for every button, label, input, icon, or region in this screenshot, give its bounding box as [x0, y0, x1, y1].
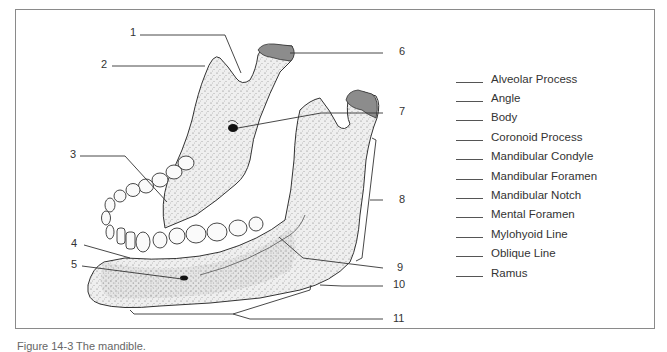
answer-blank[interactable]	[456, 269, 483, 277]
answer-blank[interactable]	[456, 133, 483, 141]
term-item: Mandibular Notch	[456, 185, 597, 204]
term-label: Angle	[491, 92, 520, 104]
label-number-4: 4	[71, 237, 77, 249]
term-label: Mandibular Foramen	[491, 170, 597, 182]
label-number-5: 5	[71, 258, 77, 270]
terms-list: Alveolar Process Angle Body Coronoid Pro…	[456, 69, 597, 282]
answer-blank[interactable]	[456, 191, 483, 199]
term-label: Mandibular Condyle	[491, 150, 593, 162]
term-item: Mylohyoid Line	[456, 224, 597, 243]
term-label: Oblique Line	[491, 247, 556, 259]
label-number-6: 6	[399, 45, 405, 57]
term-item: Alveolar Process	[456, 69, 597, 88]
term-label: Mental Foramen	[491, 208, 575, 220]
term-label: Coronoid Process	[491, 131, 582, 143]
term-label: Body	[491, 111, 517, 123]
term-item: Mental Foramen	[456, 205, 597, 224]
term-item: Mandibular Condyle	[456, 147, 597, 166]
term-label: Mylohyoid Line	[491, 228, 568, 240]
left-ramus	[163, 44, 294, 228]
label-number-10: 10	[393, 278, 405, 290]
term-item: Oblique Line	[456, 244, 597, 263]
answer-blank[interactable]	[456, 94, 483, 102]
term-label: Alveolar Process	[491, 73, 577, 85]
answer-blank[interactable]	[456, 249, 483, 257]
answer-blank[interactable]	[456, 113, 483, 121]
label-number-2: 2	[101, 58, 107, 70]
label-number-3: 3	[70, 148, 76, 160]
label-number-7: 7	[399, 105, 405, 117]
label-number-1: 1	[130, 26, 136, 38]
answer-blank[interactable]	[456, 152, 483, 160]
answer-blank[interactable]	[456, 75, 483, 83]
figure-caption: Figure 14-3 The mandible.	[17, 340, 146, 352]
label-number-9: 9	[397, 261, 403, 273]
answer-blank[interactable]	[456, 172, 483, 180]
term-item: Angle	[456, 88, 597, 107]
term-label: Mandibular Notch	[491, 189, 581, 201]
term-item: Body	[456, 108, 597, 127]
term-item: Ramus	[456, 263, 597, 282]
term-item: Mandibular Foramen	[456, 166, 597, 185]
label-number-8: 8	[399, 193, 405, 205]
label-number-11: 11	[393, 312, 404, 324]
answer-blank[interactable]	[456, 230, 483, 238]
term-item: Coronoid Process	[456, 127, 597, 146]
answer-blank[interactable]	[456, 210, 483, 218]
term-label: Ramus	[491, 267, 527, 279]
